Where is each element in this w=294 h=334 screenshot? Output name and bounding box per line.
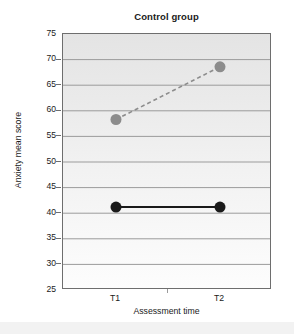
series-line bbox=[116, 67, 220, 120]
data-series bbox=[111, 61, 226, 212]
x-tick-mark bbox=[167, 289, 168, 293]
y-tick-mark bbox=[56, 238, 61, 239]
y-tick-mark bbox=[56, 110, 61, 111]
plot-area bbox=[62, 33, 271, 289]
data-point-marker bbox=[215, 202, 226, 213]
y-tick-mark bbox=[56, 84, 61, 85]
y-tick-label: 55 bbox=[30, 131, 56, 140]
data-point-marker bbox=[111, 202, 122, 213]
x-tick-label-t2: T2 bbox=[199, 293, 239, 303]
y-tick-label: 35 bbox=[30, 233, 56, 242]
x-tick-label-t1: T1 bbox=[95, 293, 135, 303]
data-point-marker bbox=[111, 114, 122, 125]
data-point-marker bbox=[215, 61, 226, 72]
y-tick-label: 25 bbox=[30, 285, 56, 294]
gridlines bbox=[63, 60, 271, 265]
x-axis-title: Assessment time bbox=[62, 306, 271, 316]
y-tick-mark bbox=[56, 263, 61, 264]
y-tick-label: 60 bbox=[30, 105, 56, 114]
y-tick-label: 45 bbox=[30, 182, 56, 191]
y-tick-label: 50 bbox=[30, 157, 56, 166]
chart-title: Control group bbox=[60, 11, 273, 22]
y-tick-mark bbox=[56, 212, 61, 213]
figure-canvas: Control group Anxiety mean score 7570656… bbox=[0, 0, 294, 322]
y-axis-title: Anxiety mean score bbox=[13, 85, 23, 215]
series-layer bbox=[63, 34, 271, 289]
y-tick-mark bbox=[56, 59, 61, 60]
y-tick-label: 75 bbox=[30, 29, 56, 38]
footer-strip bbox=[0, 322, 294, 334]
y-tick-label: 70 bbox=[30, 54, 56, 63]
y-tick-mark bbox=[56, 135, 61, 136]
y-tick-mark bbox=[56, 161, 61, 162]
y-tick-label: 65 bbox=[30, 80, 56, 89]
y-tick-label: 30 bbox=[30, 259, 56, 268]
y-axis-tick-labels: 7570656055504540353025 bbox=[26, 33, 56, 289]
y-tick-label: 40 bbox=[30, 208, 56, 217]
y-tick-mark bbox=[56, 187, 61, 188]
